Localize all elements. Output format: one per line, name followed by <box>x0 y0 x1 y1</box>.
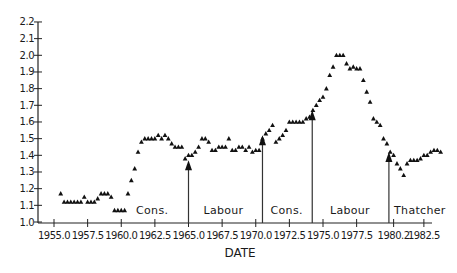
data-point-triangle-icon <box>324 86 329 90</box>
x-tick-label: 1965.0 <box>173 230 205 241</box>
period-label: Labour <box>330 204 370 217</box>
x-tick-label: 1960.0 <box>105 230 137 241</box>
x-tick-label: 1962.5 <box>139 230 171 241</box>
data-point-triangle-icon <box>240 144 245 148</box>
period-label: Cons. <box>136 204 168 217</box>
y-tick-label: 1.6 <box>20 116 35 127</box>
data-point-triangle-icon <box>95 196 100 200</box>
y-tick-label: 2.1 <box>20 33 35 44</box>
y-tick-label: 1.4 <box>20 150 35 161</box>
period-label: Labour <box>204 204 244 217</box>
data-point-triangle-icon <box>395 161 400 165</box>
data-point-triangle-icon <box>169 141 174 145</box>
data-points <box>58 53 443 212</box>
x-tick-label: 1977.5 <box>341 230 373 241</box>
data-point-triangle-icon <box>203 136 208 140</box>
y-tick-label: 1.3 <box>20 166 35 177</box>
y-tick-label: 1.0 <box>20 217 35 228</box>
data-point-triangle-icon <box>321 94 326 98</box>
data-point-triangle-icon <box>260 136 265 140</box>
data-point-triangle-icon <box>129 178 134 182</box>
data-point-triangle-icon <box>398 166 403 170</box>
data-point-triangle-icon <box>58 191 63 195</box>
data-point-triangle-icon <box>361 78 366 82</box>
x-tick-label: 1955.0 <box>38 230 70 241</box>
data-point-triangle-icon <box>257 148 262 152</box>
x-tick-label: 1970.0 <box>240 230 272 241</box>
data-point-triangle-icon <box>136 149 141 153</box>
y-tick-label: 1.9 <box>20 66 35 77</box>
y-tick-label: 1.7 <box>20 100 35 111</box>
y-tick-label: 1.1 <box>20 200 35 211</box>
arrow-head-icon <box>185 160 192 170</box>
data-point-triangle-icon <box>223 144 228 148</box>
data-point-triangle-icon <box>314 103 319 107</box>
data-point-triangle-icon <box>179 144 184 148</box>
y-tick-label: 2.0 <box>20 50 35 61</box>
y-tick-label: 2.2 <box>20 16 35 27</box>
data-point-triangle-icon <box>126 191 131 195</box>
data-point-triangle-icon <box>371 116 376 120</box>
data-point-triangle-icon <box>156 133 161 137</box>
x-tick-label: 1957.5 <box>72 230 104 241</box>
x-tick-label: 1972.5 <box>273 230 305 241</box>
data-point-triangle-icon <box>105 191 110 195</box>
data-point-triangle-icon <box>132 166 137 170</box>
data-point-triangle-icon <box>401 173 406 177</box>
data-point-triangle-icon <box>226 136 231 140</box>
data-point-triangle-icon <box>311 108 316 112</box>
data-point-triangle-icon <box>341 53 346 57</box>
data-point-triangle-icon <box>435 148 440 152</box>
chart: 1.01.11.21.31.41.51.61.71.81.92.02.12.2 … <box>0 0 457 273</box>
data-point-triangle-icon <box>122 208 127 212</box>
x-tick-label: 1980.2 <box>378 230 410 241</box>
data-point-triangle-icon <box>247 144 252 148</box>
period-label: Thatcher <box>393 204 446 217</box>
data-point-triangle-icon <box>270 123 275 127</box>
data-point-triangle-icon <box>163 133 168 137</box>
y-tick-label: 1.5 <box>20 133 35 144</box>
data-point-triangle-icon <box>368 99 373 103</box>
x-tick-label: 1982.5 <box>408 230 440 241</box>
y-tick-label: 1.2 <box>20 183 35 194</box>
data-point-triangle-icon <box>280 133 285 137</box>
x-axis: 1955.01957.51960.01962.51965.01967.51970… <box>38 219 440 241</box>
data-point-triangle-icon <box>82 194 87 198</box>
data-point-triangle-icon <box>384 141 389 145</box>
y-tick-label: 1.8 <box>20 83 35 94</box>
data-point-triangle-icon <box>358 66 363 70</box>
x-tick-label: 1975.0 <box>307 230 339 241</box>
data-point-triangle-icon <box>193 149 198 153</box>
period-labels: Cons.LabourCons.LabourThatcher <box>136 204 446 217</box>
y-axis: 1.01.11.21.31.41.51.61.71.81.92.02.12.2 <box>20 16 42 227</box>
data-point-triangle-icon <box>381 136 386 140</box>
data-point-triangle-icon <box>79 199 84 203</box>
data-point-triangle-icon <box>331 64 336 68</box>
data-point-triangle-icon <box>344 61 349 65</box>
data-point-triangle-icon <box>327 73 332 77</box>
x-tick-label: 1967.5 <box>206 230 238 241</box>
data-point-triangle-icon <box>388 149 393 153</box>
data-point-triangle-icon <box>267 128 272 132</box>
data-point-triangle-icon <box>196 144 201 148</box>
period-label: Cons. <box>271 204 303 217</box>
data-point-triangle-icon <box>364 89 369 93</box>
data-point-triangle-icon <box>351 64 356 68</box>
x-axis-title: DATE <box>224 246 255 260</box>
data-point-triangle-icon <box>284 128 289 132</box>
